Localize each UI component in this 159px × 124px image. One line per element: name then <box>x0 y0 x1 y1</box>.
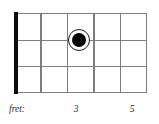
fretboard-diagram: fret: 3 5 <box>0 0 159 124</box>
fret-caption-label: fret: <box>9 105 25 115</box>
grid-line-horizontal <box>14 92 147 93</box>
fret-tick-label: 5 <box>130 105 135 115</box>
grid-line-vertical <box>120 13 121 93</box>
grid-line-vertical <box>93 13 94 93</box>
marker-dot-icon <box>72 33 86 47</box>
fret-label-row: fret: 3 5 <box>0 96 159 124</box>
grid-line-horizontal <box>14 66 147 67</box>
fretboard-grid <box>14 13 147 93</box>
finger-position-marker[interactable] <box>68 29 90 51</box>
grid-line-vertical <box>67 13 68 93</box>
grid-line-vertical <box>40 13 41 93</box>
grid-line-vertical <box>146 13 147 93</box>
fret-tick-label: 3 <box>74 105 79 115</box>
nut-bar <box>14 12 18 94</box>
grid-line-horizontal <box>14 13 147 14</box>
